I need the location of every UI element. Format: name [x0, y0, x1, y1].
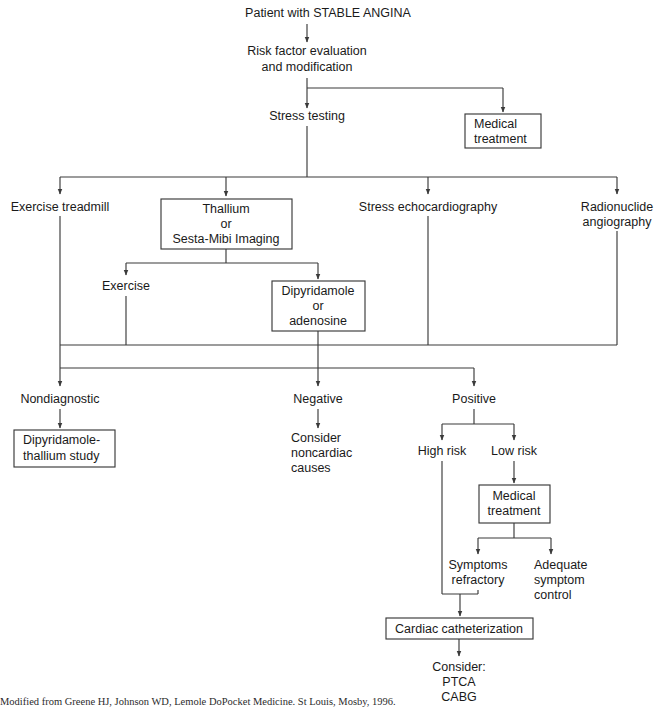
node-medical-treatment-top-line2: treatment — [474, 132, 527, 146]
node-medical-treatment-bot-line1: Medical — [492, 489, 535, 503]
node-stress-echocardiography: Stress echocardiography — [359, 200, 498, 214]
source-caption: Modified from Greene HJ, Johnson WD, Lem… — [0, 696, 656, 707]
node-exercise-treadmill: Exercise treadmill — [11, 200, 110, 214]
node-dip-thallium-line1: Dipyridamole- — [23, 433, 100, 447]
node-dipyridamole-line1: Dipyridamole — [282, 284, 355, 298]
stable-angina-flowchart: Patient with STABLE ANGINA Risk factor e… — [0, 0, 656, 708]
flowchart-page: Patient with STABLE ANGINA Risk factor e… — [0, 0, 656, 708]
node-dip-thallium-line2: thallium study — [23, 449, 100, 463]
node-thallium-line1: Thallium — [202, 202, 249, 216]
node-medical-treatment-bot-line2: treatment — [488, 504, 541, 518]
node-consider-line1: Consider — [291, 431, 341, 445]
node-stress-testing: Stress testing — [269, 109, 345, 123]
node-dipyridamole-line2: or — [312, 299, 323, 313]
node-negative: Negative — [293, 392, 342, 406]
node-thallium-line3: Sesta-Mibi Imaging — [173, 232, 280, 246]
node-adequate-line1: Adequate — [534, 558, 588, 572]
node-exercise: Exercise — [102, 279, 150, 293]
node-radionuclide-line1: Radionuclide — [581, 200, 653, 214]
node-consider-final-line2: PTCA — [442, 675, 476, 689]
node-symptoms-refractory-line2: refractory — [452, 573, 506, 587]
node-consider-line3: causes — [291, 461, 331, 475]
node-thallium-line2: or — [220, 217, 231, 231]
node-consider-final-line1: Consider: — [432, 660, 486, 674]
node-medical-treatment-top-line1: Medical — [474, 117, 517, 131]
node-consider-line2: noncardiac — [291, 446, 352, 460]
node-nondiagnostic: Nondiagnostic — [20, 392, 99, 406]
node-adequate-line2: symptom — [534, 573, 585, 587]
node-symptoms-refractory-line1: Symptoms — [448, 558, 507, 572]
node-risk-factor-line2: and modification — [261, 60, 352, 74]
node-low-risk: Low risk — [491, 444, 538, 458]
node-start: Patient with STABLE ANGINA — [245, 6, 411, 20]
node-positive: Positive — [452, 392, 496, 406]
node-adequate-line3: control — [534, 588, 572, 602]
node-high-risk: High risk — [418, 444, 467, 458]
node-radionuclide-line2: angiography — [583, 215, 653, 229]
node-dipyridamole-line3: adenosine — [289, 314, 347, 328]
node-risk-factor-line1: Risk factor evaluation — [247, 44, 367, 58]
node-cardiac-catheterization: Cardiac catheterization — [395, 622, 523, 636]
